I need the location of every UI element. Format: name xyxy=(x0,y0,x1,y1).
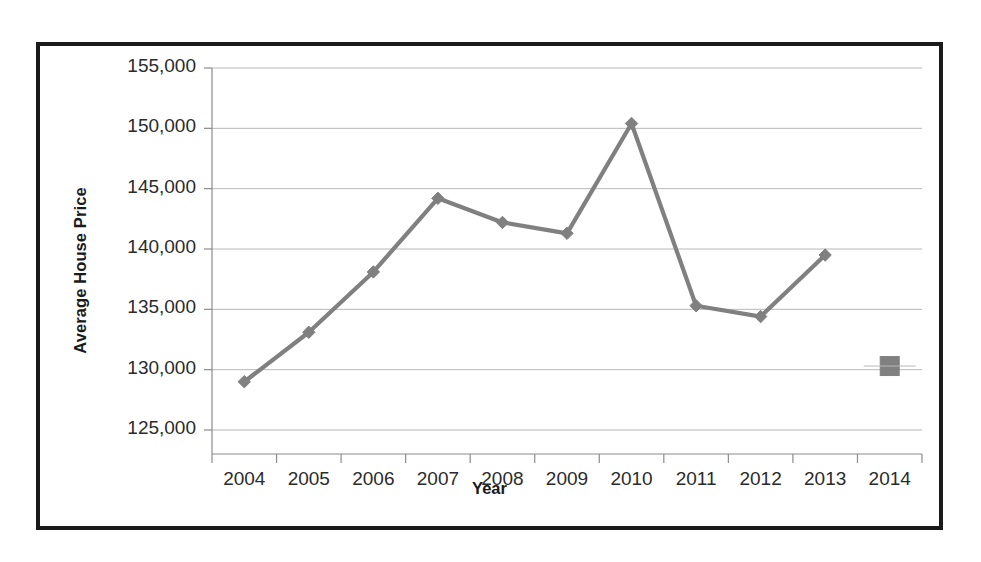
y-tick-label: 125,000 xyxy=(84,417,196,439)
y-tick-label: 135,000 xyxy=(84,296,196,318)
y-tick-marks-group xyxy=(204,68,212,430)
gridlines-group xyxy=(212,68,922,430)
y-tick-label: 155,000 xyxy=(84,55,196,77)
axis-lines-group xyxy=(212,68,922,454)
data-markers-group xyxy=(238,117,916,388)
chart-border-frame: Average House Price 125,000130,000135,00… xyxy=(36,42,943,530)
y-tick-label: 130,000 xyxy=(84,357,196,379)
y-tick-label: 145,000 xyxy=(84,176,196,198)
data-point-marker-diamond xyxy=(690,300,702,312)
x-axis-title: Year xyxy=(40,479,939,498)
x-tick-marks-group xyxy=(212,454,922,463)
chart-plot-container: Average House Price 125,000130,000135,00… xyxy=(40,46,939,526)
data-polyline xyxy=(244,124,825,382)
y-tick-label: 140,000 xyxy=(84,236,196,258)
data-point-marker-diamond xyxy=(496,216,508,228)
data-line-group xyxy=(244,124,825,382)
y-tick-label: 150,000 xyxy=(84,115,196,137)
